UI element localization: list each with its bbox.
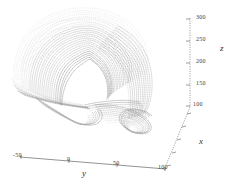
x-axis-label: x — [199, 136, 203, 146]
z-tick-label-300: 300 — [196, 14, 206, 20]
attractor-3d-plot: .trace{fill:none;stroke:#9a9a9a;stroke-w… — [0, 0, 237, 187]
z-axis — [186, 18, 190, 107]
y-axis — [20, 155, 166, 171]
trace-right-lobe — [95, 105, 152, 134]
trajectory-trace — [12, 8, 152, 134]
y-tick-label-100: 100 — [158, 164, 168, 170]
x-axis — [164, 107, 191, 170]
y-tick-label-50: 50 — [113, 160, 120, 166]
plot-figure: .trace{fill:none;stroke:#9a9a9a;stroke-w… — [0, 0, 237, 187]
z-axis-label: z — [220, 43, 224, 53]
y-tick-label-0: 0 — [67, 156, 70, 162]
z-tick-label-100: 100 — [193, 101, 203, 107]
z-tick-label-200: 200 — [196, 58, 206, 64]
trace-left-wing — [12, 79, 90, 109]
z-tick-label-250: 250 — [196, 36, 206, 42]
trace-loop-inner-rim — [56, 52, 112, 105]
trace-right-shoulder — [98, 26, 152, 119]
y-axis-label: y — [82, 168, 86, 178]
y-tick-label-minus50: -50 — [13, 152, 22, 158]
z-tick-label-150: 150 — [196, 80, 206, 86]
